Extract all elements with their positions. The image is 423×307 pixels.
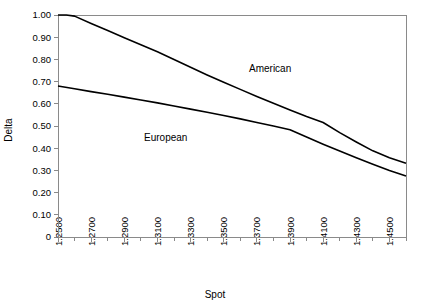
- y-axis-ticks: 1.000.900.800.700.600.500.400.300.200.10…: [33, 9, 59, 242]
- x-tick-label: 1.2900: [119, 217, 130, 246]
- series-annotations: AmericanEuropean: [144, 63, 291, 143]
- y-tick-label: 0.40: [33, 143, 52, 154]
- x-tick-label: 1.3100: [152, 217, 163, 246]
- x-tick-label: 1.4500: [384, 217, 395, 246]
- series-line-european: [58, 86, 406, 176]
- y-tick-label: 0.90: [33, 32, 52, 43]
- series-line-american: [58, 15, 406, 163]
- x-tick-label: 1.3300: [185, 217, 196, 246]
- series-curves: [58, 15, 406, 176]
- y-tick-label: 1.00: [33, 9, 52, 20]
- x-tick-label: 1.2700: [86, 217, 97, 246]
- x-tick-label: 1.4300: [351, 217, 362, 246]
- series-annotation-european: European: [144, 132, 187, 143]
- chart-svg: 1.000.900.800.700.600.500.400.300.200.10…: [0, 0, 423, 307]
- x-tick-label: 1.3700: [251, 217, 262, 246]
- y-tick-label: 0.70: [33, 76, 52, 87]
- y-tick-label: 0.60: [33, 98, 52, 109]
- series-annotation-american: American: [249, 63, 291, 74]
- y-tick-label: 0.10: [33, 209, 52, 220]
- x-axis-ticks: 1.25001.27001.29001.31001.33001.35001.37…: [53, 217, 406, 246]
- y-tick-label: 0.30: [33, 165, 52, 176]
- x-axis-title: Spot: [205, 289, 226, 300]
- y-axis-title: Delta: [3, 118, 14, 142]
- y-tick-label: 0.80: [33, 54, 52, 65]
- x-tick-label: 1.3500: [218, 217, 229, 246]
- y-tick-label: 0.50: [33, 120, 52, 131]
- plot-frame: [58, 15, 406, 237]
- y-tick-label: 0: [46, 231, 51, 242]
- delta-vs-spot-chart: 1.000.900.800.700.600.500.400.300.200.10…: [0, 0, 423, 307]
- y-tick-label: 0.20: [33, 187, 52, 198]
- x-tick-label: 1.3900: [285, 217, 296, 246]
- x-tick-label: 1.4100: [318, 217, 329, 246]
